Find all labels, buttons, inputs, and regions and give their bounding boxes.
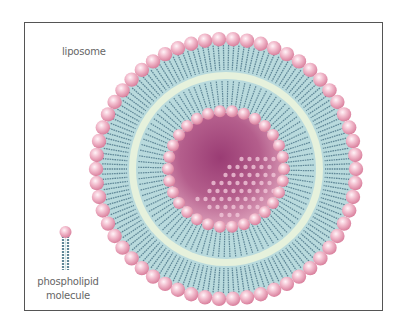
molecule-label: molecule (33, 290, 103, 301)
phospholipid-molecule-icon (60, 226, 72, 270)
phospholipid-label: phospholipid (33, 276, 103, 287)
phospholipid-head-icon (60, 226, 72, 238)
liposome-label: liposome (62, 46, 106, 57)
liposome-diagram (0, 0, 400, 318)
liposome (89, 32, 363, 306)
